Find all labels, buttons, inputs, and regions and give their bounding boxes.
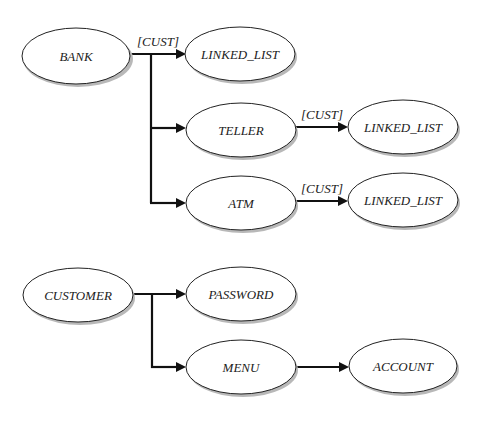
node-label: MENU (222, 360, 261, 375)
edge-label-atm-cust: [CUST] (301, 181, 343, 196)
node-linked-list-2: LINKED_LIST (348, 100, 460, 157)
edge-label-bank-cust: [CUST] (137, 34, 179, 49)
edge-bank-to-teller (150, 123, 186, 133)
node-label: PASSWORD (208, 287, 274, 302)
edge-bank-to-atm (150, 198, 186, 208)
edge-atm-to-linked-list (296, 196, 348, 206)
node-label: LINKED_LIST (200, 47, 280, 62)
node-label: ATM (227, 196, 255, 211)
node-label: TELLER (218, 123, 264, 138)
node-menu: MENU (186, 340, 298, 397)
edge-label-teller-cust: [CUST] (301, 107, 343, 122)
node-label: LINKED_LIST (363, 120, 443, 135)
node-customer: CUSTOMER (23, 268, 135, 325)
arrowhead-icon (176, 198, 186, 208)
arrowhead-icon (338, 122, 348, 132)
node-label: ACCOUNT (372, 359, 434, 374)
edge-customer-to-menu (151, 362, 186, 372)
arrowhead-icon (176, 362, 186, 372)
edge-bank-to-linked-list (130, 49, 186, 59)
arrowhead-icon (176, 289, 186, 299)
node-linked-list-3: LINKED_LIST (348, 173, 460, 230)
arrowhead-icon (176, 123, 186, 133)
node-linked-list-1: LINKED_LIST (185, 27, 297, 84)
diagram-canvas: [CUST] [CUST] [CUST] (0, 0, 482, 421)
arrowhead-icon (338, 196, 348, 206)
node-teller: TELLER (186, 103, 298, 160)
edge-customer-to-password (133, 289, 186, 299)
node-label: LINKED_LIST (363, 193, 443, 208)
edge-menu-to-account (297, 362, 349, 372)
node-password: PASSWORD (186, 267, 298, 324)
node-label: CUSTOMER (44, 288, 112, 303)
node-account: ACCOUNT (349, 339, 459, 396)
arrowhead-icon (339, 362, 349, 372)
edge-teller-to-linked-list (296, 122, 348, 132)
node-label: BANK (59, 49, 94, 64)
node-atm: ATM (186, 176, 298, 233)
node-bank: BANK (22, 28, 133, 87)
